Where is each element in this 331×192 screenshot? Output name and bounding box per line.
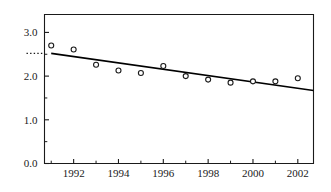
regression-scatter-plot: 0.01.02.03.0 199219941996199820002002 [0,0,331,192]
y-tick-label: 1.0 [24,114,38,126]
chart-container: 0.01.02.03.0 199219941996199820002002 [0,0,331,192]
y-tick-label: 3.0 [24,26,38,38]
x-tick-label: 1996 [152,167,175,179]
x-tick-label: 1998 [197,167,220,179]
y-tick-label: 2.0 [24,70,38,82]
x-tick-label: 2000 [242,167,265,179]
y-tick-label: 0.0 [24,157,38,169]
x-tick-label: 2002 [287,167,309,179]
x-tick-label: 1992 [63,167,85,179]
x-tick-label: 1994 [107,167,130,179]
